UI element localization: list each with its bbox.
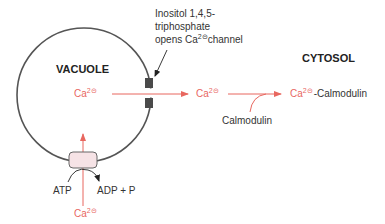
cytosol-calcium: Ca2⊝ <box>196 87 219 99</box>
calcium-channel-upper <box>145 78 153 88</box>
calcium-calmodulin-complex: Ca2⊝-Calmodulin <box>290 87 367 99</box>
calmodulin-join-curve <box>250 94 266 112</box>
adp-label: ADP + P <box>97 185 136 196</box>
calcium-signaling-diagram: Inositol 1,4,5- triphosphate opens Ca2⊝c… <box>0 0 385 224</box>
annotation-pointer-arrow <box>155 50 167 76</box>
calcium-atpase-pump <box>69 152 97 168</box>
vacuole-calcium: Ca2⊝ <box>74 87 97 99</box>
vacuole-label: VACUOLE <box>56 63 109 75</box>
calcium-channel-lower <box>145 98 153 108</box>
calmodulin-label: Calmodulin <box>222 115 272 126</box>
cytosol-label: CYTOSOL <box>302 52 355 64</box>
annotation-line-1: Inositol 1,4,5- <box>155 8 215 19</box>
atp-label: ATP <box>53 185 72 196</box>
annotation-line-3: opens Ca2⊝channel <box>155 33 243 45</box>
annotation-line-2: triphosphate <box>155 21 210 32</box>
external-calcium: Ca2⊝ <box>74 207 97 219</box>
